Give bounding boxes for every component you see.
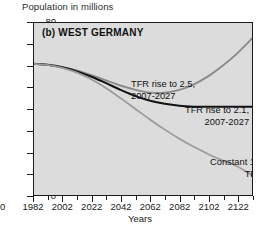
annotation-constant-tfr-1-3-line2: TFR bbox=[210, 169, 253, 181]
x-tick-label-1982: 1982 bbox=[22, 201, 43, 212]
chart-figure: Population in millions 80706050403020100… bbox=[0, 0, 256, 227]
x-tick-minor-1992 bbox=[48, 196, 49, 200]
x-axis-title-text: Years bbox=[128, 213, 152, 224]
annotation-tfr-2-1-line1: TFR rise to 2.1, bbox=[185, 105, 249, 115]
x-tick-minor-2092 bbox=[194, 196, 195, 200]
x-axis-title: Years bbox=[0, 213, 256, 224]
x-tick-label-2002: 2002 bbox=[52, 201, 73, 212]
annotation-tfr-2-1-line2: 2007-2027 bbox=[185, 117, 249, 129]
annotation-tfr-2-5: TFR rise to 2.5, 2007-2027 bbox=[131, 79, 195, 102]
panel-title: (b) WEST GERMANY bbox=[42, 27, 144, 38]
x-tick-label-2022: 2022 bbox=[81, 201, 102, 212]
annotation-tfr-2-5-line1: TFR rise to 2.5, bbox=[131, 79, 195, 89]
x-tick-label-2062: 2062 bbox=[140, 201, 161, 212]
annotation-constant-tfr-1-3: Constant 1.3 TFR bbox=[210, 157, 253, 180]
x-tick-minor-2052 bbox=[136, 196, 137, 200]
annotation-tfr-2-1: TFR rise to 2.1, 2007-2027 bbox=[185, 105, 249, 128]
x-tick-minor-2132 bbox=[253, 196, 254, 200]
x-tick-label-2122: 2122 bbox=[228, 201, 249, 212]
annotation-tfr-2-5-line2: 2007-2027 bbox=[131, 91, 195, 103]
y-axis-title: Population in millions bbox=[22, 1, 113, 12]
x-tick-label-2042: 2042 bbox=[110, 201, 131, 212]
x-tick-minor-2112 bbox=[224, 196, 225, 200]
x-tick-minor-2032 bbox=[106, 196, 107, 200]
annotation-constant-tfr-1-3-line1: Constant 1.3 bbox=[210, 157, 253, 167]
plot-area: (b) WEST GERMANY TFR rise to 2.5, 2007-2… bbox=[33, 22, 253, 196]
x-tick-minor-2012 bbox=[77, 196, 78, 200]
x-tick-label-2102: 2102 bbox=[198, 201, 219, 212]
x-tick-label-2082: 2082 bbox=[169, 201, 190, 212]
neighbor-panel-orphan-label: 0 bbox=[0, 201, 5, 212]
x-tick-minor-2072 bbox=[165, 196, 166, 200]
